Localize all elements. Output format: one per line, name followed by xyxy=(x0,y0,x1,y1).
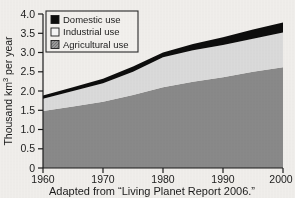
legend-label-domestic-use: Domestic use xyxy=(63,14,121,25)
water-use-stacked-area-chart: 0 0.5 1.0 1.5 2.0 2.5 3.0 3.5 4.0 1960 1… xyxy=(0,0,295,198)
x-tick-label: 1970 xyxy=(91,173,115,185)
x-tick-label: 1990 xyxy=(211,173,235,185)
y-tick-label: 2.5 xyxy=(20,65,35,77)
legend-swatch-agricultural-use xyxy=(51,41,59,49)
chart-legend: Domestic use Industrial use Agricultural… xyxy=(46,11,138,52)
y-axis-title-text: Thousand km xyxy=(2,82,14,146)
legend-swatch-industrial-use xyxy=(51,28,59,36)
figure-caption: Adapted from “Living Planet Report 2006.… xyxy=(49,185,255,197)
x-tick-label: 2000 xyxy=(269,173,293,185)
y-tick-label: 3.0 xyxy=(20,46,35,58)
x-tick-label: 1960 xyxy=(31,173,55,185)
y-tick-label: 3.5 xyxy=(20,27,35,39)
y-axis-tick-labels: 0 0.5 1.0 1.5 2.0 2.5 3.0 3.5 4.0 xyxy=(20,8,35,174)
x-tick-label: 1980 xyxy=(151,173,175,185)
y-tick-label: 1.5 xyxy=(20,104,35,116)
y-tick-label: 2.0 xyxy=(20,85,35,97)
y-tick-label: 4.0 xyxy=(20,8,35,20)
legend-label-agricultural-use: Agricultural use xyxy=(63,39,128,50)
y-tick-label: 0 xyxy=(29,162,35,174)
legend-swatch-domestic-use xyxy=(51,16,59,24)
chart-figure: 0 0.5 1.0 1.5 2.0 2.5 3.0 3.5 4.0 1960 1… xyxy=(0,0,295,198)
y-axis-title: Thousand km3 per year xyxy=(1,36,15,146)
y-tick-label: 0.5 xyxy=(20,142,35,154)
legend-label-industrial-use: Industrial use xyxy=(63,26,120,37)
y-tick-label: 1.0 xyxy=(20,123,35,135)
